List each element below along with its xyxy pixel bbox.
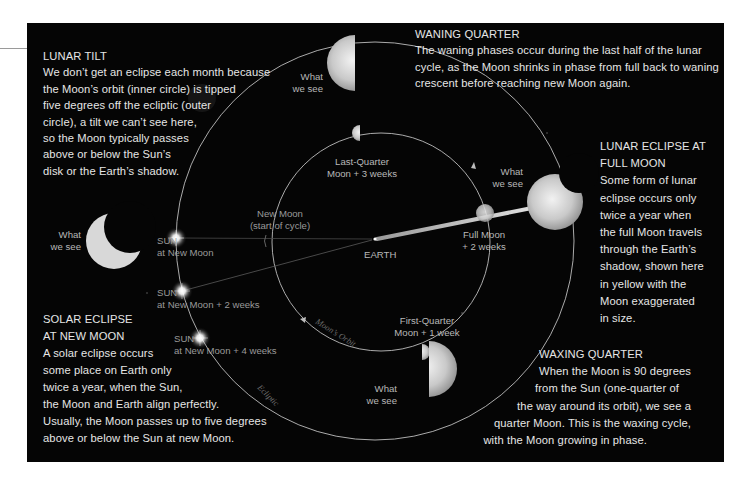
text-line: Some form of lunar [600,172,706,189]
label-line: Full Moon [457,229,511,241]
waxing-moon-icon [401,341,457,397]
text-line: Usually, the Moon passes up to five degr… [43,413,267,430]
label-line: we see [289,83,323,95]
lunar-tilt-section: LUNAR TILT We don’t get an eclipse each … [43,48,270,179]
lunar-eclipse-moon-icon [527,153,599,230]
text-line: circle), a tilt we can’t see here, [43,114,270,130]
label-line: at New Moon [157,247,214,259]
label-line: What [487,166,523,178]
text-line: above or below the Sun’s [43,146,270,162]
full-moon-label: Full Moon + 2 weeks [457,229,511,253]
text-line: Moon exaggerated [600,293,706,310]
label-line: SUN [174,333,277,345]
text-line: the way around its orbit), we see a [483,398,691,415]
lunar-eclipse-heading: LUNAR ECLIPSE AT [600,138,706,155]
last-quarter-label: Last-Quarter Moon + 3 weeks [322,156,402,180]
text-line: We don’t get an eclipse each month becau… [43,64,270,80]
text-line: the full Moon travels [600,224,706,241]
earth-label: EARTH [364,249,396,261]
full-moon-icon [476,204,494,222]
label-line: First-Quarter [387,315,467,327]
sun-label-new-moon: SUN at New Moon [157,235,214,259]
text-line: through the Earth’s [600,241,706,258]
first-quarter-moon-icon [414,344,430,360]
label-line: What [289,71,323,83]
first-quarter-label: First-Quarter Moon + 1 week [387,315,467,339]
text-line: shadow, shown here [600,258,706,275]
label-line: What [41,229,81,241]
label-line: Moon + 1 week [387,327,467,339]
text-line: the Moon and Earth align perfectly. [43,396,267,413]
solar-eclipse-heading: SOLAR ECLIPSE [43,311,267,328]
label-line: (start of cycle) [245,220,315,232]
text-line: eclipse occurs only [600,190,706,207]
text-line: so the Moon typically passes [43,130,270,146]
diagram-panel: Moon’s Orbit Ecliptic [27,23,724,462]
label-line: at New Moon + 4 weeks [174,345,277,357]
last-quarter-moon-icon [352,125,368,141]
text-line: in yellow with the [600,276,706,293]
text-line: quarter Moon. This is the waxing cycle, [483,415,691,432]
leader-line [0,48,27,49]
waxing-quarter-heading: WAXING QUARTER [483,346,691,363]
what-we-see-label-right: What we see [487,166,523,190]
label-line: Last-Quarter [322,156,402,168]
solar-eclipse-icon [86,201,156,269]
text-line: twice a year when [600,207,706,224]
label-line: What [361,383,397,395]
text-line: in size. [600,310,706,327]
text-line: The waning phases occur during the last … [415,42,719,58]
text-line: five degrees off the ecliptic (outer [43,97,270,113]
new-moon-label: New Moon (start of cycle) [245,208,315,232]
text-line: some place on Earth only [43,362,267,379]
lunar-eclipse-heading: FULL MOON [600,155,706,172]
lunar-eclipse-section: LUNAR ECLIPSE AT FULL MOON Some form of … [600,138,706,327]
text-line: cycle, as the Moon shrinks in phase from… [415,59,719,75]
text-line: crescent before reaching new Moon again. [415,75,719,91]
label-line: New Moon [245,208,315,220]
label-line: SUN [157,235,214,247]
waning-quarter-heading: WANING QUARTER [415,26,719,42]
text-line: twice a year, when the Sun, [43,379,267,396]
what-we-see-label-top: What we see [289,71,323,95]
label-line: we see [361,395,397,407]
label-line: + 2 weeks [457,241,511,253]
sun-label-4-weeks: SUN at New Moon + 4 weeks [174,333,277,357]
sun-label-2-weeks: SUN at New Moon + 2 weeks [157,287,260,311]
what-we-see-label-bottom: What we see [361,383,397,407]
label-line: we see [41,241,81,253]
text-line: disk or the Earth’s shadow. [43,163,270,179]
label-line: at New Moon + 2 weeks [157,299,260,311]
earth-icon [373,237,376,240]
waxing-quarter-section: WAXING QUARTER When the Moon is 90 degre… [483,346,691,449]
lunar-tilt-heading: LUNAR TILT [43,48,270,64]
text-line: the Moon’s orbit (inner circle) is tippe… [43,81,270,97]
label-line: Moon + 3 weeks [322,168,402,180]
waning-quarter-section: WANING QUARTER The waning phases occur d… [415,26,719,92]
solar-eclipse-section: SOLAR ECLIPSE AT NEW MOON A solar eclips… [43,311,267,447]
waning-moon-icon [327,35,383,91]
text-line: with the Moon growing in phase. [483,432,691,449]
what-we-see-label-left: What we see [41,229,81,253]
text-line: from the Sun (one-quarter of [483,380,691,397]
orbit-arrow-icon [471,162,476,169]
text-line: When the Moon is 90 degrees [483,363,691,380]
label-line: SUN [157,287,260,299]
text-line: above or below the Sun at new Moon. [43,430,267,447]
label-line: we see [487,178,523,190]
new-moon-marker [265,235,267,247]
